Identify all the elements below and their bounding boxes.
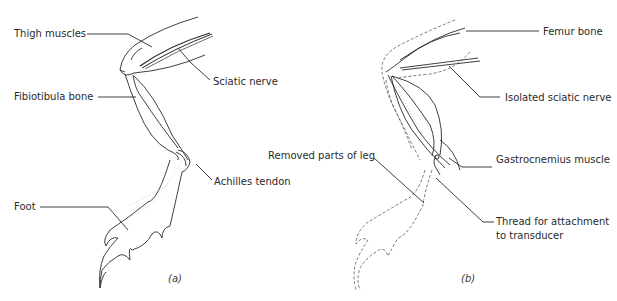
label-sciatic-nerve: Sciatic nerve — [213, 76, 278, 88]
caption-b: (b) — [461, 273, 475, 284]
leg-a-leaders — [40, 34, 212, 230]
label-gastrocnemius-muscle: Gastrocnemius muscle — [496, 154, 610, 166]
label-achilles-tendon: Achilles tendon — [214, 176, 291, 188]
label-removed-parts-of-leg: Removed parts of leg — [268, 150, 375, 162]
leg-a-stipple — [120, 37, 210, 222]
label-thread-line1: Thread for attachment — [496, 216, 609, 228]
label-fibiotibula-bone: Fibiotibula bone — [14, 91, 93, 103]
label-thread-line2: to transducer — [496, 230, 563, 242]
label-isolated-sciatic-nerve: Isolated sciatic nerve — [505, 92, 611, 104]
label-foot: Foot — [14, 201, 36, 213]
label-thigh-muscles: Thigh muscles — [14, 28, 86, 40]
leg-b-leaders — [374, 31, 539, 222]
caption-a: (a) — [168, 273, 182, 284]
label-femur-bone: Femur bone — [543, 26, 603, 38]
leg-a-drawing — [100, 17, 214, 288]
leg-b-solid — [386, 28, 480, 175]
